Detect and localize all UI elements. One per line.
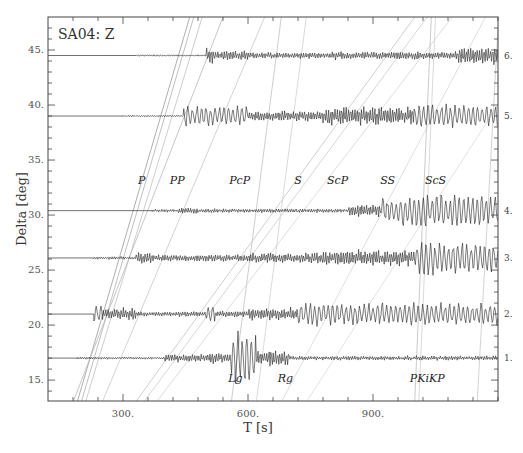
y-tick-label: 45.	[28, 44, 44, 55]
phase-label-s: S	[294, 174, 302, 187]
travel-time-curve	[281, 17, 485, 402]
y-tick-label: 35.	[28, 154, 44, 165]
y-tick-label: 20.	[28, 319, 44, 330]
y-tick-label: 30.	[28, 209, 44, 220]
seismogram-trace	[136, 48, 498, 65]
trace-number-label: 5.	[504, 111, 513, 121]
trace-number-label: 6.	[504, 51, 513, 61]
x-tick-label: 300.	[112, 408, 134, 419]
phase-label-pkikp: PKiKP	[409, 372, 445, 385]
y-tick-label: 40.	[28, 99, 44, 110]
phase-label-pp: PP	[169, 174, 185, 187]
seismogram-record-section: PPPPcPSScPSSScSLgRgPKiKP 300.600.900. 15…	[0, 0, 523, 453]
phase-label-rg: Rg	[277, 372, 293, 385]
x-tick-label: 600.	[237, 408, 259, 419]
trace-number-label: 1.	[504, 353, 513, 363]
trace-number-label: 3.	[504, 253, 513, 263]
seismogram-trace	[152, 195, 498, 226]
station-title: SA04: Z	[58, 26, 115, 42]
phase-label-lg: Lg	[227, 372, 242, 385]
trace-number-label: 2.	[504, 309, 513, 319]
seismogram-traces	[48, 48, 498, 384]
phase-label-pcp: PcP	[228, 174, 251, 187]
y-tick-label: 15.	[28, 374, 44, 385]
seismogram-trace	[123, 104, 497, 128]
seismogram-trace	[94, 302, 498, 326]
trace-number-label: 4.	[504, 206, 513, 216]
y-tick-label: 25.	[28, 264, 44, 275]
travel-time-curve	[256, 17, 306, 402]
y-axis-title: Delta [deg]	[14, 172, 29, 246]
seismogram-trace	[94, 242, 498, 275]
phase-label-ss: SS	[380, 174, 395, 187]
phase-label-scp: ScP	[327, 174, 349, 187]
x-axis-title: T [s]	[243, 420, 273, 435]
x-tick-label: 900.	[362, 408, 384, 419]
phase-label-scs: ScS	[425, 174, 447, 187]
travel-time-curve	[86, 17, 203, 402]
travel-time-curve	[419, 17, 436, 402]
phase-label-p: P	[137, 174, 146, 187]
